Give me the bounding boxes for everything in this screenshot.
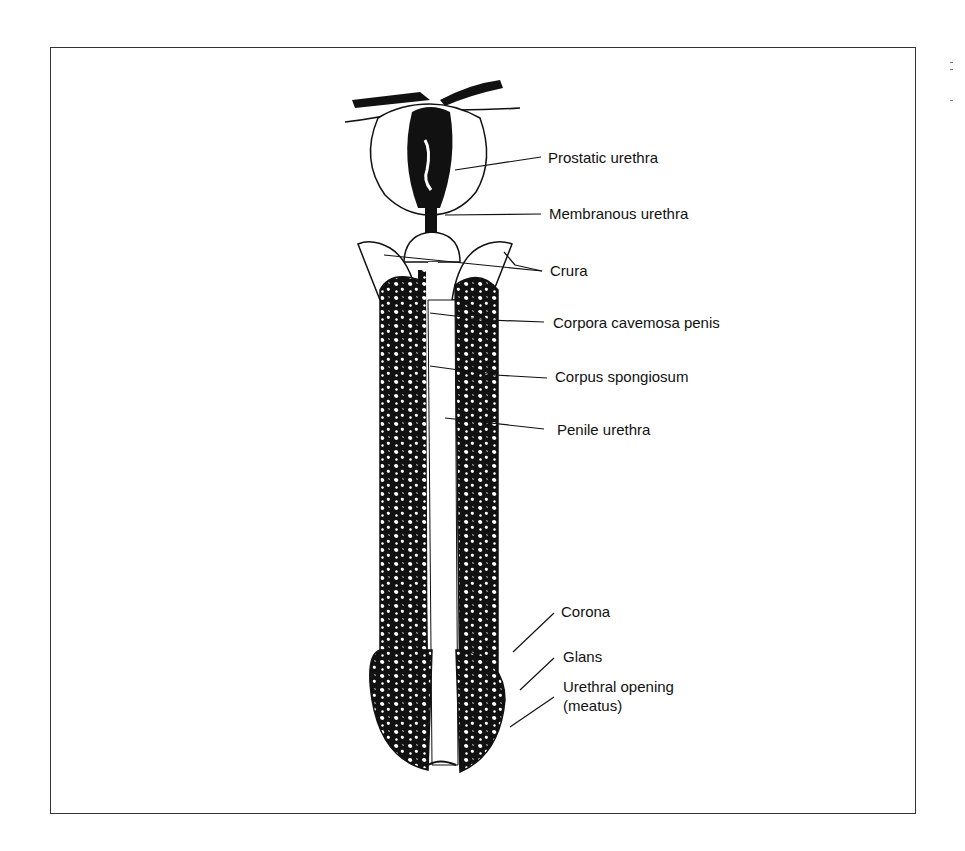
label-glans: Glans [563, 648, 602, 666]
edge-mark [950, 100, 953, 101]
right-corpus-spongiosum [455, 278, 498, 702]
label-urethral-opening: Urethral opening [563, 678, 674, 696]
prostate-gland [370, 104, 486, 215]
anatomy-drawing [0, 0, 965, 851]
label-penile-urethra: Penile urethra [557, 421, 650, 439]
edge-mark [950, 62, 953, 63]
label-corpora-cavernosa: Corpora cavemosa penis [553, 314, 720, 332]
label-meatus: (meatus) [563, 697, 622, 715]
label-membranous-urethra: Membranous urethra [549, 205, 688, 223]
label-corona: Corona [561, 603, 610, 621]
label-corpus-spongiosum: Corpus spongiosum [555, 368, 688, 386]
label-prostatic-urethra: Prostatic urethra [548, 149, 658, 167]
edge-mark [950, 69, 953, 70]
label-crura: Crura [550, 262, 588, 280]
